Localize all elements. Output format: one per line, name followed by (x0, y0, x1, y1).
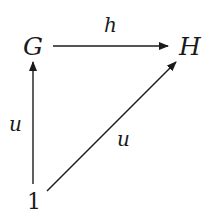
edge-label-u-vertical: u (9, 114, 22, 134)
edge-label-h: h (104, 15, 117, 35)
node-1: 1 (27, 191, 41, 213)
node-H: H (179, 34, 201, 59)
arrow-u-diagonal (47, 62, 176, 191)
node-G: G (23, 34, 43, 59)
edge-label-u-diagonal: u (117, 129, 130, 149)
